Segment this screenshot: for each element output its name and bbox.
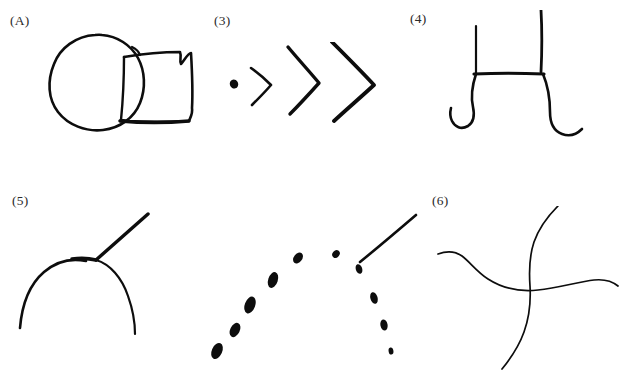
bracket-right-curl — [543, 74, 582, 135]
arch-dot-7 — [354, 263, 363, 274]
arch-curve-apex — [72, 258, 96, 260]
square-left-edge — [121, 57, 124, 120]
oval-shape — [49, 35, 143, 131]
panel-label-a: (A) — [10, 14, 29, 28]
wavy-curve-vertical — [502, 206, 558, 369]
square-shape — [120, 52, 192, 122]
arch-dot-10 — [388, 347, 394, 355]
arch-curve-right — [96, 260, 135, 334]
arch-dot-1 — [209, 341, 225, 361]
arch-dot-6 — [331, 249, 342, 260]
arch-dot-2 — [227, 321, 242, 339]
arch-dot-8 — [369, 291, 379, 305]
arch-dot-4 — [266, 271, 280, 290]
clipped-heading-text — [0, 0, 627, 5]
sketch-oval-and-square — [32, 30, 208, 140]
panel-5: (5) — [8, 192, 198, 382]
bracket-horizontal-bar — [474, 73, 544, 74]
panel-6: (6) — [428, 192, 624, 382]
panel-4: (4) — [404, 10, 624, 180]
square-bottom-edge — [120, 121, 189, 123]
chevron-large — [332, 42, 374, 121]
arch-dot-5 — [291, 251, 305, 266]
panel-3: (3) — [210, 12, 400, 177]
arch-diagonal-stroke — [96, 214, 148, 260]
sketch-dotted-arch-with-diagonal — [190, 208, 422, 368]
arch-dot-3 — [242, 295, 258, 315]
bracket-right-post — [541, 10, 542, 72]
sketch-bracket-table — [424, 10, 624, 160]
arch-curve — [20, 260, 86, 328]
sketch-crossing-wavy-curves — [432, 206, 622, 376]
panel-a: (A) — [8, 14, 208, 179]
bracket-left-curl — [450, 74, 476, 128]
panel-dotted-arch — [190, 192, 422, 382]
chevron-small — [251, 68, 271, 105]
clipped-heading-strip — [0, 0, 627, 5]
wavy-curve-horizontal — [438, 252, 618, 291]
sketch-chevron-sequence — [224, 42, 400, 126]
sketch-arch-with-diagonal — [12, 206, 188, 346]
dotted-arch-diagonal-stroke — [360, 215, 416, 262]
chevron-medium — [288, 47, 319, 114]
panel-label-3: (3) — [214, 14, 230, 28]
chevron-dot — [229, 78, 240, 89]
arch-dot-9 — [379, 319, 388, 331]
